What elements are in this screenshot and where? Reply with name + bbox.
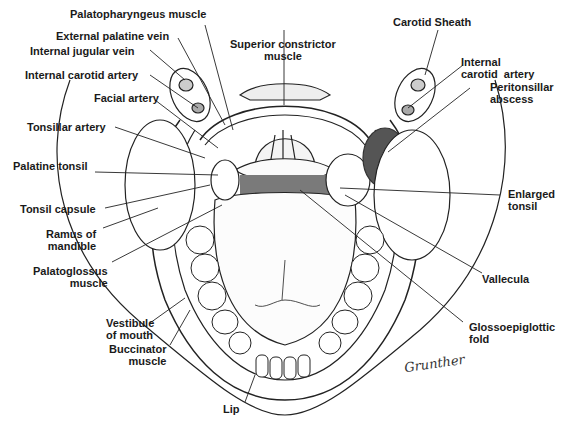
pharynx-arc (200, 106, 370, 140)
label-vallecula: Vallecula (482, 273, 529, 285)
label-buccinator-muscle: Buccinator muscle (109, 343, 166, 367)
label-internal-carotid-artery-left: Internal carotid artery (25, 69, 138, 81)
label-carotid-sheath: Carotid Sheath (393, 16, 471, 28)
label-external-palatine-vein: External palatine vein (56, 30, 169, 42)
superior-constrictor (240, 84, 330, 100)
anatomy-figure: Palatopharyngeus muscle External palatin… (0, 0, 565, 430)
label-glossoepiglottic-fold: Glossoepiglottic fold (469, 321, 555, 345)
label-tonsillar-artery: Tonsillar artery (27, 121, 106, 133)
label-palatopharyngeus-muscle: Palatopharyngeus muscle (70, 8, 206, 20)
label-palatoglossus-muscle: Palatoglossus muscle (33, 265, 108, 289)
label-ramus-of-mandible: Ramus of mandible (46, 228, 96, 252)
label-enlarged-tonsil: Enlarged tonsil (508, 188, 555, 212)
carotid-sheath-left (162, 62, 218, 128)
ramus-left (125, 120, 195, 250)
label-vestibule-of-mouth: Vestibule of mouth (106, 317, 154, 341)
palatine-tonsil (211, 160, 239, 200)
ramus-right (374, 130, 450, 260)
carotid-sheath-right (387, 62, 443, 128)
label-palatine-tonsil: Palatine tonsil (13, 160, 88, 172)
label-superior-constrictor-muscle: Superior constrictor muscle (230, 38, 336, 62)
label-lip: Lip (223, 403, 240, 415)
label-internal-carotid-artery-right: Internal carotid artery (461, 56, 534, 80)
label-facial-artery: Facial artery (94, 92, 159, 104)
label-tonsil-capsule: Tonsil capsule (20, 203, 96, 215)
label-internal-jugular-vein: Internal jugular vein (30, 45, 135, 57)
label-peritonsillar-abscess: Peritonsillar abscess (490, 81, 554, 105)
